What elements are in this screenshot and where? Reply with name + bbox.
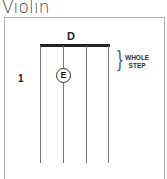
interval-label: WHOLE STEP bbox=[125, 54, 149, 70]
string-1 bbox=[40, 46, 41, 163]
brace-icon: } bbox=[116, 47, 124, 73]
string-3 bbox=[86, 46, 87, 163]
interval-label-line2: STEP bbox=[125, 62, 149, 70]
string-4 bbox=[108, 46, 109, 163]
open-string-note-label: D bbox=[67, 30, 75, 42]
string-2 bbox=[63, 46, 64, 163]
diagram-title: Violin bbox=[2, 0, 50, 17]
nut-line bbox=[40, 44, 110, 47]
fingerboard-frame bbox=[4, 17, 165, 179]
interval-label-line1: WHOLE bbox=[125, 54, 149, 62]
finger-number-label: 1 bbox=[18, 73, 24, 84]
fingered-note-marker: E bbox=[56, 68, 71, 83]
